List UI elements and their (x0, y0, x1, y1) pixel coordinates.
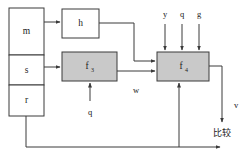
terminal-compare-label: 比较 (213, 127, 231, 138)
block-diagram: m s r h f 3 f 4 (0, 0, 247, 161)
register-cell-m-label: m (23, 26, 31, 36)
register-stack: m s r (9, 8, 44, 116)
diagram-canvas: m s r h f 3 f 4 (0, 0, 247, 161)
register-cell-s-label: s (25, 65, 29, 75)
signal-label-g: g (197, 9, 202, 19)
block-f4: f 4 (157, 52, 209, 81)
block-f3-rect (62, 52, 117, 81)
block-f4-subscript: 4 (185, 67, 188, 73)
signal-label-v: v (234, 100, 239, 110)
signal-label-q-bottom: q (88, 107, 93, 117)
block-f3: f 3 (62, 52, 117, 81)
block-h: h (62, 9, 99, 38)
block-f3-subscript: 3 (91, 67, 94, 73)
signal-label-q-top: q (180, 9, 185, 19)
signal-label-w: w (133, 85, 140, 95)
block-f4-rect (157, 52, 209, 81)
wire-f4-output-to-terminal (209, 66, 222, 122)
signal-label-y: y (163, 9, 168, 19)
wire-feedback-bus (26, 116, 220, 147)
block-h-label: h (78, 18, 83, 28)
